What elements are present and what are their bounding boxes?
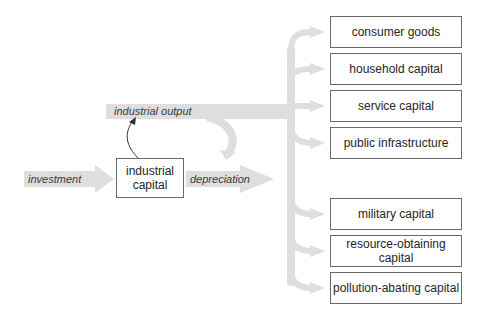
depreciation-label: depreciation bbox=[190, 173, 250, 185]
stock-label-line1: industrial bbox=[126, 164, 174, 178]
stock-label-line2: capital bbox=[126, 178, 174, 192]
sector-household-capital: household capital bbox=[330, 53, 462, 85]
sector-consumer-goods: consumer goods bbox=[330, 16, 462, 48]
sector-public-infrastructure: public infrastructure bbox=[330, 127, 462, 159]
sector-service-capital: service capital bbox=[330, 90, 462, 122]
sector-resource-obtaining-capital: resource-obtaining capital bbox=[330, 235, 462, 267]
sector-pollution-abating-capital: pollution-abating capital bbox=[330, 272, 462, 304]
industrial-output-label: industrial output bbox=[114, 105, 192, 117]
investment-label: investment bbox=[28, 173, 81, 185]
sector-military-capital: military capital bbox=[330, 198, 462, 230]
industrial-capital-stock: industrial capital bbox=[116, 158, 184, 198]
feedback-arrow bbox=[127, 122, 138, 158]
